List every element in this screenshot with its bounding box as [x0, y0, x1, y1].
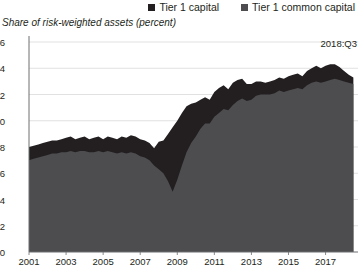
x-axis-tick-2013: 2013	[241, 256, 262, 267]
x-axis-tick-2015: 2015	[278, 256, 299, 267]
y-axis-tick-16: 16	[0, 37, 5, 48]
chart-plot-area	[0, 0, 361, 272]
chart-svg	[0, 0, 361, 272]
chart-figure: Tier 1 capital Tier 1 common capital Sha…	[0, 0, 361, 272]
x-axis-tick-2003: 2003	[55, 256, 76, 267]
chart-y-axis-labels: 0246810121416	[0, 0, 28, 272]
x-axis-tick-2007: 2007	[130, 256, 151, 267]
chart-annotation-2018q3: 2018:Q3	[321, 38, 357, 49]
x-axis-tick-2011: 2011	[204, 256, 224, 267]
y-axis-tick-2: 2	[0, 220, 5, 231]
x-axis-tick-2017: 2017	[315, 256, 336, 267]
x-axis-tick-2009: 2009	[167, 256, 188, 267]
y-axis-tick-6: 6	[0, 168, 5, 179]
y-axis-tick-14: 14	[0, 63, 5, 74]
chart-x-axis-labels: 200120032005200720092011201320152017	[0, 254, 361, 272]
chart-series-areas	[29, 64, 353, 252]
y-axis-tick-8: 8	[0, 142, 5, 153]
y-axis-tick-4: 4	[0, 194, 5, 205]
y-axis-tick-12: 12	[0, 89, 5, 100]
x-axis-tick-2001: 2001	[18, 256, 39, 267]
y-axis-tick-10: 10	[0, 115, 5, 126]
x-axis-tick-2005: 2005	[93, 256, 114, 267]
